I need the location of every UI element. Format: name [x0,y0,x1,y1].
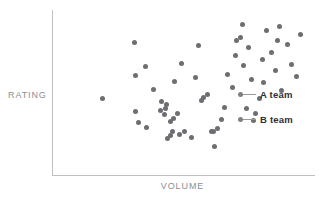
legend-label-a-team: A team [260,89,293,100]
data-point [264,28,269,33]
data-point [241,63,246,68]
data-point [225,72,230,77]
data-point [179,61,184,66]
data-point [277,24,282,29]
data-point [171,116,176,121]
legend-item-a-team[interactable]: A team [238,88,293,100]
data-point [168,133,173,138]
data-point [143,64,148,69]
legend-connector-line [243,119,256,120]
scatter-chart: RATING VOLUME A team B team [0,0,319,199]
data-point [162,112,167,117]
data-point [285,42,290,47]
data-point [219,117,224,122]
data-point [249,77,254,82]
data-point [172,79,177,84]
data-point [144,125,149,130]
data-point [163,106,168,111]
data-point [244,106,249,111]
data-point [298,32,303,37]
data-point [193,75,198,80]
data-point [275,38,280,43]
legend-item-b-team[interactable]: B team [238,113,293,125]
data-point [215,126,220,131]
data-point [212,144,217,149]
data-point [222,105,227,110]
legend-label-b-team: B team [260,114,293,125]
data-point [238,35,243,40]
data-point [294,74,299,79]
data-point [261,80,266,85]
data-point [182,129,187,134]
data-point [289,62,294,67]
legend-connector-line [243,94,256,95]
data-point [132,40,137,45]
data-point [136,120,141,125]
data-point [196,43,201,48]
data-point [189,135,194,140]
data-point [273,68,278,73]
data-point [175,111,180,116]
data-point [133,109,138,114]
data-point [233,53,238,58]
data-point [240,22,245,27]
data-point [269,50,274,55]
data-point [246,45,251,50]
data-point [260,57,265,62]
data-point [133,73,138,78]
data-point [100,96,105,101]
data-point [151,87,156,92]
data-point [230,85,235,90]
data-point [205,92,210,97]
